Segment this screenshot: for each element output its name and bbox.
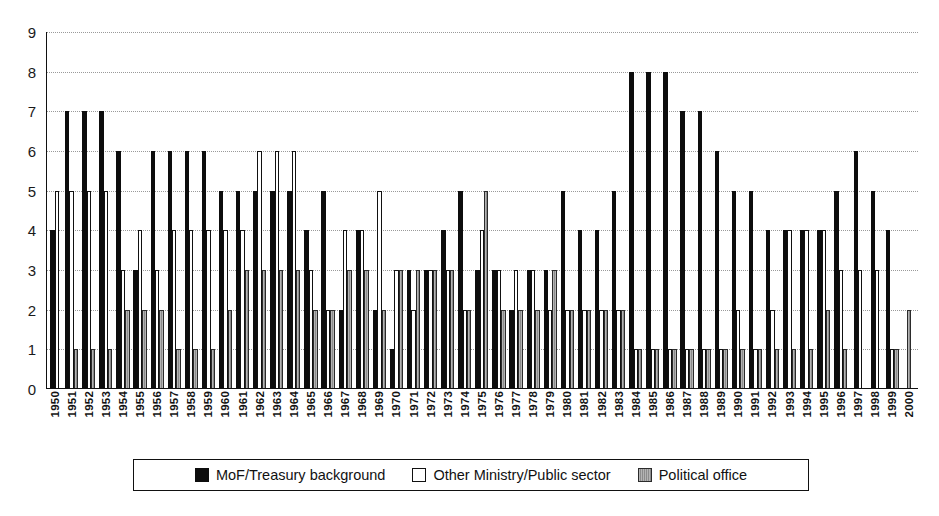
bar-political	[279, 270, 283, 389]
y-axis-tick-labels: 0123456789	[0, 32, 46, 389]
y-tick-label: 9	[28, 25, 36, 40]
year-bar-group	[559, 32, 576, 389]
x-tick-label: 1983	[610, 391, 627, 449]
legend-item: MoF/Treasury background	[195, 467, 386, 483]
year-bar-group	[320, 32, 337, 389]
legend-label: MoF/Treasury background	[216, 467, 386, 483]
bar-political	[894, 349, 898, 389]
bar-political	[706, 349, 710, 389]
bar-mof	[646, 72, 650, 389]
y-tick-label: 6	[28, 144, 36, 159]
x-tick-label: 1987	[678, 391, 695, 449]
year-bar-group	[80, 32, 97, 389]
year-bar-group	[114, 32, 131, 389]
x-tick-label: 1966	[320, 391, 337, 449]
x-tick-label: 1965	[302, 391, 319, 449]
x-tick-label: 1971	[405, 391, 422, 449]
bar-political	[518, 310, 522, 389]
x-axis-line	[46, 388, 918, 389]
bar-political	[399, 270, 403, 389]
x-axis-tick-labels: 1950195119521953195419551956195719581959…	[46, 391, 918, 449]
year-bar-group	[251, 32, 268, 389]
x-tick-label: 1980	[559, 391, 576, 449]
year-bar-group	[661, 32, 678, 389]
bar-mof	[663, 72, 667, 389]
x-tick-label: 1956	[149, 391, 166, 449]
year-bar-group	[849, 32, 866, 389]
bar-other	[55, 191, 59, 389]
year-bar-group	[166, 32, 183, 389]
y-tick-label: 8	[28, 64, 36, 79]
bar-political	[228, 310, 232, 389]
year-bar-group	[217, 32, 234, 389]
bar-political	[809, 349, 813, 389]
bar-political	[347, 270, 351, 389]
year-bar-group	[439, 32, 456, 389]
bars-layer	[46, 32, 918, 389]
year-bar-group	[593, 32, 610, 389]
x-tick-label: 1968	[354, 391, 371, 449]
year-bar-group	[337, 32, 354, 389]
year-bar-group	[405, 32, 422, 389]
x-tick-label: 1970	[388, 391, 405, 449]
x-tick-label: 1975	[473, 391, 490, 449]
bar-political	[501, 310, 505, 389]
year-bar-group	[473, 32, 490, 389]
year-bar-group	[97, 32, 114, 389]
year-bar-group	[815, 32, 832, 389]
x-tick-label: 1954	[114, 391, 131, 449]
bar-political	[535, 310, 539, 389]
x-tick-label: 1984	[627, 391, 644, 449]
x-tick-label: 1994	[798, 391, 815, 449]
year-bar-group	[884, 32, 901, 389]
white-square-icon	[412, 468, 426, 482]
year-bar-group	[901, 32, 918, 389]
year-bar-group	[832, 32, 849, 389]
black-square-icon	[195, 468, 209, 482]
bar-political	[313, 310, 317, 389]
bar-political	[159, 310, 163, 389]
year-bar-group	[200, 32, 217, 389]
y-tick-label: 7	[28, 104, 36, 119]
bar-political	[621, 310, 625, 389]
bar-political	[843, 349, 847, 389]
year-bar-group	[627, 32, 644, 389]
x-tick-label: 1985	[644, 391, 661, 449]
x-tick-label: 1964	[285, 391, 302, 449]
y-tick-label: 5	[28, 183, 36, 198]
bar-political	[142, 310, 146, 389]
x-tick-label: 1977	[508, 391, 525, 449]
year-bar-group	[490, 32, 507, 389]
bar-political	[330, 310, 334, 389]
bar-political	[907, 310, 911, 389]
legend-item: Political office	[638, 467, 747, 483]
legend-item: Other Ministry/Public sector	[412, 467, 610, 483]
x-tick-label: 1989	[713, 391, 730, 449]
bar-political	[604, 310, 608, 389]
year-bar-group	[678, 32, 695, 389]
x-tick-label: 1969	[371, 391, 388, 449]
year-bar-group	[183, 32, 200, 389]
year-bar-group	[46, 32, 63, 389]
year-bar-group	[508, 32, 525, 389]
bar-political	[433, 270, 437, 389]
year-bar-group	[867, 32, 884, 389]
x-tick-label: 1972	[422, 391, 439, 449]
year-bar-group	[268, 32, 285, 389]
x-tick-label: 1992	[764, 391, 781, 449]
year-bar-group	[764, 32, 781, 389]
x-tick-label: 1961	[234, 391, 251, 449]
x-tick-label: 1959	[200, 391, 217, 449]
year-bar-group	[131, 32, 148, 389]
x-tick-label: 1962	[251, 391, 268, 449]
bar-other	[875, 270, 879, 389]
y-tick-label: 3	[28, 263, 36, 278]
x-tick-label: 1963	[268, 391, 285, 449]
y-tick-label: 4	[28, 223, 36, 238]
legend-label: Political office	[659, 467, 747, 483]
year-bar-group	[422, 32, 439, 389]
year-bar-group	[713, 32, 730, 389]
year-bar-group	[747, 32, 764, 389]
x-tick-label: 1981	[576, 391, 593, 449]
year-bar-group	[149, 32, 166, 389]
